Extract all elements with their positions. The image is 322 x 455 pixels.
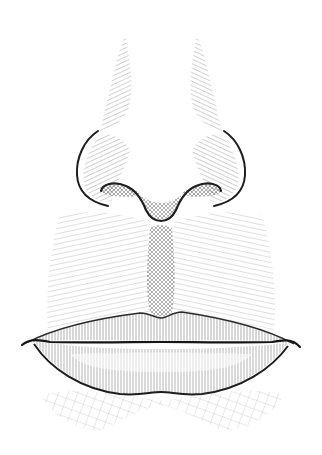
illustration-canvas	[0, 0, 322, 455]
nose-bridge-shading	[100, 35, 222, 132]
nose-side-shading	[83, 134, 238, 220]
nostrils	[101, 185, 221, 197]
philtrum	[147, 225, 175, 317]
lower-lip	[34, 341, 288, 395]
chin-shading	[40, 391, 285, 430]
nose-lips-engraving	[0, 0, 322, 455]
